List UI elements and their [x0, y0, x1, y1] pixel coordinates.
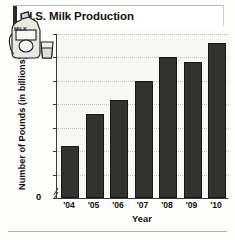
y-axis-title: Number of Pounds (in billions) [17, 48, 27, 198]
x-axis-tick-label: '06 [109, 200, 127, 210]
x-axis-tick-label: '08 [158, 200, 176, 210]
chart-figure: U.S. Milk Production Number of Pounds (i… [0, 0, 235, 240]
bar-05 [86, 114, 104, 198]
x-axis-tick-label: '10 [207, 200, 225, 210]
x-axis-tick-label: '05 [85, 200, 103, 210]
bar-07 [135, 81, 153, 198]
bottom-divider [8, 231, 227, 232]
x-axis-tick-label: '09 [183, 200, 201, 210]
x-axis-title: Year [56, 213, 228, 224]
bar-06 [110, 100, 128, 198]
milk-carton-label: MILK [14, 26, 27, 32]
plot-area: 160165170175180185190195 [56, 34, 229, 198]
x-axis-tick-label: '04 [60, 200, 78, 210]
bar-04 [61, 146, 79, 198]
y-axis-zero-label: 0 [36, 191, 41, 202]
bar-10 [208, 43, 226, 198]
x-axis-line [56, 198, 228, 199]
bar-series [57, 34, 229, 198]
bar-09 [184, 62, 202, 198]
bar-08 [159, 57, 177, 198]
x-axis-tick-label: '07 [134, 200, 152, 210]
milk-jug-icon [4, 8, 58, 66]
x-axis-tick-labels: '04'05'06'07'08'09'10 [56, 200, 228, 210]
